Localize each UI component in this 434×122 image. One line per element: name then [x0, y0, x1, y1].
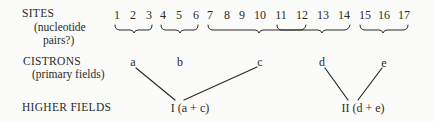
cistron-d: d: [319, 56, 325, 68]
connector-e-II: [358, 68, 382, 100]
higher-field-II: II (d + e): [341, 102, 384, 114]
higher-field-I: I (a + c): [171, 102, 209, 114]
connector-a-I: [136, 68, 175, 100]
connector-d-II: [325, 68, 348, 100]
cistron-a: a: [130, 56, 135, 68]
brace-e: [360, 25, 408, 33]
brace-b: [161, 25, 198, 33]
cistron-b: b: [177, 56, 183, 68]
connector-c-I: [184, 67, 257, 100]
brace-a: [115, 25, 152, 33]
cistron-c: c: [257, 56, 262, 68]
brace-d: [277, 25, 350, 33]
brace-c: [208, 25, 306, 33]
cistron-e: e: [381, 57, 386, 69]
